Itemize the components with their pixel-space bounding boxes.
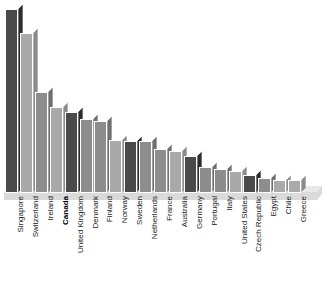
axis-label-portugal: Portugal bbox=[210, 196, 219, 226]
bar-front-face bbox=[20, 33, 33, 193]
bar-chart: SingaporeSwitzerlandIrelandCanadaUnited … bbox=[0, 0, 331, 281]
axis-label-sweden: Sweden bbox=[135, 196, 144, 225]
bar-front-face bbox=[199, 167, 212, 193]
axis-label-ireland: Ireland bbox=[46, 196, 55, 220]
bar-front-face bbox=[273, 180, 286, 193]
axis-label-canada: Canada bbox=[61, 196, 70, 225]
axis-label-netherlands: Netherlands bbox=[150, 196, 159, 239]
bar-front-face bbox=[80, 119, 93, 193]
axis-label-singapore: Singapore bbox=[16, 196, 25, 232]
axis-label-italy: Italy bbox=[225, 196, 234, 211]
bar-front-face bbox=[94, 121, 107, 193]
bar-front-face bbox=[139, 141, 152, 193]
bar-front-face bbox=[5, 9, 18, 193]
bar-front-face bbox=[243, 175, 256, 193]
bar-front-face bbox=[124, 141, 137, 193]
axis-label-switzerland: Switzerland bbox=[31, 196, 40, 237]
bar-front-face bbox=[258, 178, 271, 193]
bar-front-face bbox=[109, 140, 122, 193]
axis-label-finland: Finland bbox=[105, 196, 114, 222]
axis-label-united-states: United States bbox=[240, 196, 249, 244]
axis-label-egypt: Egypt bbox=[269, 196, 278, 216]
category-axis-labels: SingaporeSwitzerlandIrelandCanadaUnited … bbox=[0, 196, 331, 281]
axis-label-united-kingdom: United Kingdom bbox=[76, 196, 85, 253]
bar-front-face bbox=[184, 156, 197, 193]
axis-label-norway: Norway bbox=[120, 196, 129, 223]
axis-label-denmark: Denmark bbox=[91, 196, 100, 228]
bar-front-face bbox=[288, 180, 301, 193]
bar-front-face bbox=[154, 149, 167, 193]
axis-label-greece: Greece bbox=[299, 196, 308, 222]
axis-label-czech-republic: Czech Republic bbox=[254, 196, 263, 252]
axis-label-germany: Germany bbox=[195, 196, 204, 229]
bar-front-face bbox=[65, 112, 78, 193]
axis-label-australia: Australia bbox=[180, 196, 189, 227]
plot-area bbox=[0, 0, 331, 200]
bar-front-face bbox=[229, 171, 242, 193]
bar-front-face bbox=[35, 92, 48, 193]
bar-front-face bbox=[214, 169, 227, 193]
axis-label-france: France bbox=[165, 196, 174, 221]
bar-front-face bbox=[169, 151, 182, 193]
bar-side-face bbox=[301, 175, 306, 193]
axis-label-chile: Chile bbox=[284, 196, 293, 214]
bar-greece[interactable] bbox=[288, 175, 306, 193]
bar-front-face bbox=[50, 107, 63, 193]
